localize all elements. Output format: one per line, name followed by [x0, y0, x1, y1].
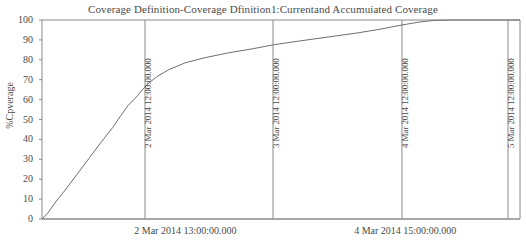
- y-axis-tick-label: 70: [7, 75, 33, 85]
- y-axis-tick-label: 60: [7, 95, 33, 105]
- y-axis-tick-label: 40: [7, 134, 33, 144]
- y-axis-tick-label: 0: [7, 214, 33, 224]
- plot-area: [0, 0, 526, 242]
- x-axis-tick-label: 2 Mar 2014 13:00:00.000: [115, 225, 255, 236]
- y-axis-tick-label: 30: [7, 154, 33, 164]
- y-axis-tick-label: 20: [7, 174, 33, 184]
- chart-title: Coverage Definition-Coverage Dfinition1:…: [0, 3, 526, 15]
- vertical-gridline-label: 3 Mar 2014 12:00:00.000: [271, 58, 281, 148]
- y-axis-tick-label: 100: [7, 15, 33, 25]
- vertical-gridline-label: 2 Mar 2014 12:00:00.000: [143, 58, 153, 148]
- x-axis-tick-label: 4 Mar 2014 15:00:00.000: [335, 225, 475, 236]
- coverage-chart: Coverage Definition-Coverage Dfinition1:…: [0, 0, 526, 242]
- vertical-gridline-label: 5 Mar 2014 12:00:00.000: [506, 58, 516, 148]
- coverage-line: [42, 20, 520, 219]
- y-axis-tick-label: 50: [7, 115, 33, 125]
- y-axis-tick-label: 10: [7, 194, 33, 204]
- vertical-gridline-label: 4 Mar 2014 12:00:00.000: [400, 58, 410, 148]
- y-axis-tick-label: 80: [7, 55, 33, 65]
- y-axis-tick-label: 90: [7, 35, 33, 45]
